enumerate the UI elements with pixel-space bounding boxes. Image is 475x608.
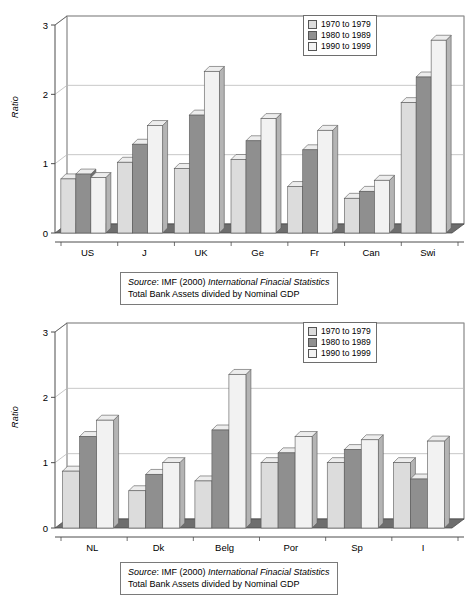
bar-front-face: [344, 450, 361, 528]
y-tick-label: 2: [43, 392, 48, 403]
bar-side-face: [444, 436, 449, 528]
x-category-label: Ge: [251, 247, 264, 258]
top-chart-block: Ratio 0123USJUKGeFrCanSwi 1970 to 197919…: [0, 0, 475, 270]
bar: [374, 175, 394, 233]
bar-front-face: [133, 144, 148, 233]
x-category-label: Dk: [153, 542, 165, 553]
bar-front-face: [146, 474, 163, 528]
y-tick-label: 1: [43, 158, 48, 169]
bar-front-face: [189, 115, 204, 233]
bottom-chart-plot-area: Ratio 0123NLDkBelgPorSpI 1970 to 1979198…: [0, 310, 475, 580]
bar-front-face: [246, 141, 261, 233]
y-tick-label: 1: [43, 457, 48, 468]
bar-side-face: [246, 369, 251, 528]
bar-front-face: [97, 420, 114, 528]
source-rest: : IMF (2000): [157, 567, 209, 577]
bar-side-face: [378, 435, 383, 528]
bar-front-face: [76, 174, 91, 233]
bottom-chart-svg: 0123NLDkBelgPorSpI: [0, 310, 475, 560]
bar-side-face: [312, 432, 317, 528]
bar: [295, 432, 317, 528]
legend-item: 1970 to 1979: [308, 326, 371, 337]
bar-front-face: [261, 463, 278, 528]
x-category-label: US: [81, 247, 94, 258]
bottom-chart-block: Ratio 0123NLDkBelgPorSpI 1970 to 1979198…: [0, 310, 475, 580]
x-category-label: J: [142, 247, 147, 258]
legend-item: 1970 to 1979: [308, 19, 371, 30]
top-chart-source-box: Source: IMF (2000) International Finacia…: [120, 272, 338, 305]
source-line-2: Total Bank Assets divided by Nominal GDP: [128, 288, 330, 300]
legend-item-label: 1990 to 1999: [321, 41, 371, 52]
bar-front-face: [303, 150, 318, 233]
bar: [97, 415, 119, 528]
source-publication: International Finacial Statistics: [208, 277, 330, 287]
legend-item-label: 1970 to 1979: [321, 326, 371, 337]
source-line-1: Source: IMF (2000) International Finacia…: [128, 276, 330, 288]
bar: [361, 435, 383, 528]
source-line-2: Total Bank Assets divided by Nominal GDP: [128, 578, 330, 590]
bar: [431, 35, 451, 233]
bar-front-face: [195, 481, 212, 528]
x-category-label: Fr: [310, 247, 319, 258]
bar: [91, 173, 111, 233]
bar-front-face: [359, 191, 374, 233]
legend-item: 1980 to 1989: [308, 30, 371, 41]
legend-swatch-1970s: [308, 327, 317, 336]
x-category-label: Por: [283, 542, 298, 553]
bar-side-face: [163, 121, 168, 233]
bar: [163, 458, 185, 528]
bar-front-face: [163, 463, 180, 528]
y-tick-label: 3: [43, 327, 48, 338]
bar-front-face: [129, 491, 146, 528]
legend-swatch-1970s: [308, 20, 317, 29]
source-line-1: Source: IMF (2000) International Finacia…: [128, 566, 330, 578]
bar: [229, 369, 251, 528]
bar-front-face: [393, 463, 410, 528]
bar: [261, 114, 281, 233]
bar: [148, 121, 168, 233]
bar: [318, 125, 338, 233]
bar-side-face: [219, 66, 224, 233]
bar-front-face: [63, 471, 80, 528]
bar-front-face: [61, 179, 76, 233]
top-chart-svg: 0123USJUKGeFrCanSwi: [0, 0, 475, 270]
bottom-chart-source-box: Source: IMF (2000) International Finacia…: [120, 562, 338, 595]
source-publication: International Finacial Statistics: [208, 567, 330, 577]
bar-front-face: [204, 71, 219, 233]
bar-front-face: [427, 441, 444, 528]
bar-side-face: [114, 415, 119, 528]
bar-front-face: [91, 178, 106, 233]
bar-front-face: [431, 40, 446, 233]
x-category-label: Sp: [351, 542, 363, 553]
bar-front-face: [261, 119, 276, 233]
chart-legend: 1970 to 19791980 to 19891990 to 1999: [303, 15, 377, 56]
legend-swatch-1990s: [308, 42, 317, 51]
bar-front-face: [416, 77, 431, 233]
legend-item-label: 1990 to 1999: [321, 348, 371, 359]
legend-swatch-1990s: [308, 349, 317, 358]
y-tick-label: 3: [43, 20, 48, 31]
legend-item-label: 1980 to 1989: [321, 337, 371, 348]
legend-item-label: 1970 to 1979: [321, 19, 371, 30]
bar-front-face: [80, 437, 97, 528]
x-category-label: UK: [194, 247, 208, 258]
bar-front-face: [318, 130, 333, 233]
legend-item: 1990 to 1999: [308, 41, 371, 52]
bar-front-face: [361, 440, 378, 528]
x-category-label: Swi: [420, 247, 435, 258]
bar-front-face: [231, 160, 246, 233]
y-tick-label: 0: [43, 228, 48, 239]
bar-side-face: [446, 35, 451, 233]
bar-front-face: [212, 430, 229, 528]
bar-front-face: [288, 187, 303, 233]
chart-legend: 1970 to 19791980 to 19891990 to 1999: [303, 322, 377, 363]
bar: [204, 66, 224, 233]
bar-front-face: [295, 437, 312, 528]
source-label: Source: [128, 567, 157, 577]
bar-front-face: [118, 162, 133, 233]
x-category-label: Belg: [215, 542, 234, 553]
legend-item: 1980 to 1989: [308, 337, 371, 348]
legend-swatch-1980s: [308, 31, 317, 40]
legend-item-label: 1980 to 1989: [321, 30, 371, 41]
bar-front-face: [174, 169, 189, 233]
